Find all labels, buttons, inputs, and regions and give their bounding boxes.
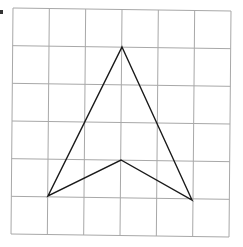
grid-lines — [11, 8, 231, 237]
grid-diagram — [0, 0, 243, 247]
